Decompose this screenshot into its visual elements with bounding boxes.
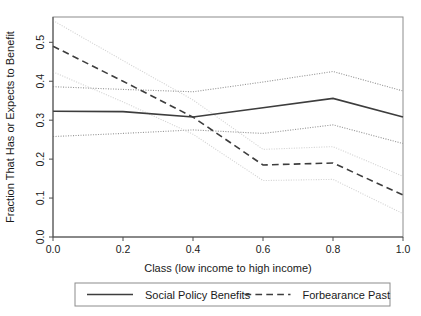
x-tick-label: 0.4 (186, 243, 201, 255)
y-tick-label: 0.4 (34, 74, 46, 89)
y-tick-label: 0.1 (34, 191, 46, 206)
x-axis-title: Class (low income to high income) (144, 262, 312, 274)
x-tick-label: 1.0 (396, 243, 411, 255)
chart-canvas: 0.00.20.40.60.81.0 0.00.10.20.30.40.5 Cl… (0, 0, 421, 316)
legend-label-0: Social Policy Benefits (145, 289, 251, 301)
x-tick-label: 0.2 (116, 243, 131, 255)
x-tick-label: 0.8 (326, 243, 341, 255)
y-axis-title: Fraction That Has or Expects to Benefit (4, 31, 16, 223)
y-tick-label: 0.2 (34, 152, 46, 167)
x-tick-label: 0.0 (46, 243, 61, 255)
legend-label-1: Forbearance Past (303, 289, 390, 301)
y-tick-label: 0.5 (34, 35, 46, 50)
y-tick-label: 0.0 (34, 230, 46, 245)
y-tick-label: 0.3 (34, 113, 46, 128)
chart-legend: Social Policy BenefitsForbearance Past (75, 283, 390, 306)
chart-figure: 0.00.20.40.60.81.0 0.00.10.20.30.40.5 Cl… (0, 0, 421, 316)
x-tick-label: 0.6 (256, 243, 271, 255)
